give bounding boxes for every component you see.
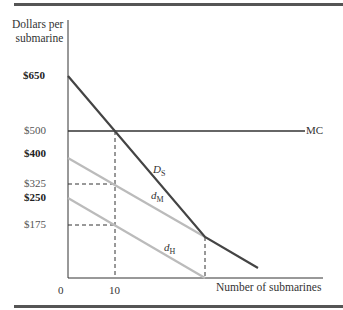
dm-curve — [68, 158, 205, 237]
tick-400: $400 — [24, 147, 46, 159]
dh-label-sub: H — [170, 247, 176, 256]
tick-250: $250 — [24, 191, 46, 203]
y-axis-label-line2: submarine — [12, 31, 63, 45]
tick-650: $650 — [23, 69, 45, 81]
mc-label: MC — [306, 124, 323, 136]
y-axis-label: Dollars per submarine — [12, 17, 63, 45]
y-axis-label-line1: Dollars per — [12, 17, 63, 31]
x-axis-label: Number of submarines — [216, 281, 321, 293]
x-tick-0: 0 — [58, 284, 64, 296]
dm-label: dM — [151, 189, 164, 204]
chart-plot — [0, 0, 343, 310]
ds-label-main: D — [153, 163, 161, 175]
tick-175: $175 — [24, 218, 46, 230]
dm-label-sub: M — [157, 195, 164, 204]
dh-label: dH — [164, 241, 175, 256]
tick-325: $325 — [24, 177, 46, 189]
dh-curve — [68, 198, 205, 278]
ds-label: DS — [153, 163, 165, 178]
x-tick-10: 10 — [109, 284, 120, 296]
ds-label-sub: S — [161, 169, 165, 178]
tick-500: $500 — [24, 124, 46, 136]
